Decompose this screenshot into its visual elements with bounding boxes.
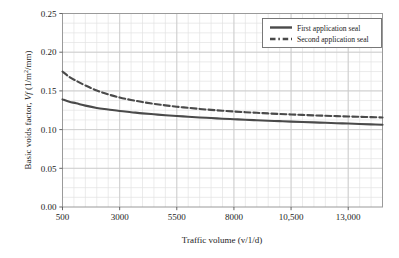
x-tick-label: 3000 — [111, 212, 130, 222]
y-axis-title-units-tail: /mm) — [23, 51, 33, 71]
y-tick-label: 0.25 — [41, 9, 57, 19]
x-tick-label: 8000 — [225, 212, 244, 222]
x-axis-title: Traffic volume (v/1/d) — [182, 235, 263, 245]
legend-label-second-application-seal: Second application seal — [297, 35, 369, 44]
y-axis-title-prefix: Basic voids factor, — [23, 100, 33, 169]
x-tick-label: 13,000 — [336, 212, 361, 222]
y-tick-label: 0.05 — [41, 164, 57, 174]
x-tick-label: 500 — [56, 212, 70, 222]
x-tick-label: 5500 — [168, 212, 187, 222]
chart-canvas: 50030005500800010,50013,000 0.000.050.10… — [0, 0, 399, 258]
chart-legend[interactable]: First application seal Second applicatio… — [263, 19, 382, 48]
y-axis-title: Basic voids factor, Vf (1/m2/mm) — [23, 51, 33, 170]
y-axis-title-units: (1/m — [23, 73, 33, 92]
chart-figure: 50030005500800010,50013,000 0.000.050.10… — [0, 0, 399, 258]
y-tick-label: 0.15 — [41, 86, 57, 96]
y-tick-label: 0.00 — [41, 202, 57, 212]
legend-label-first-application-seal: First application seal — [297, 24, 360, 33]
y-tick-label: 0.20 — [41, 47, 57, 57]
x-tick-label: 10,500 — [279, 212, 304, 222]
y-tick-label: 0.10 — [41, 125, 57, 135]
